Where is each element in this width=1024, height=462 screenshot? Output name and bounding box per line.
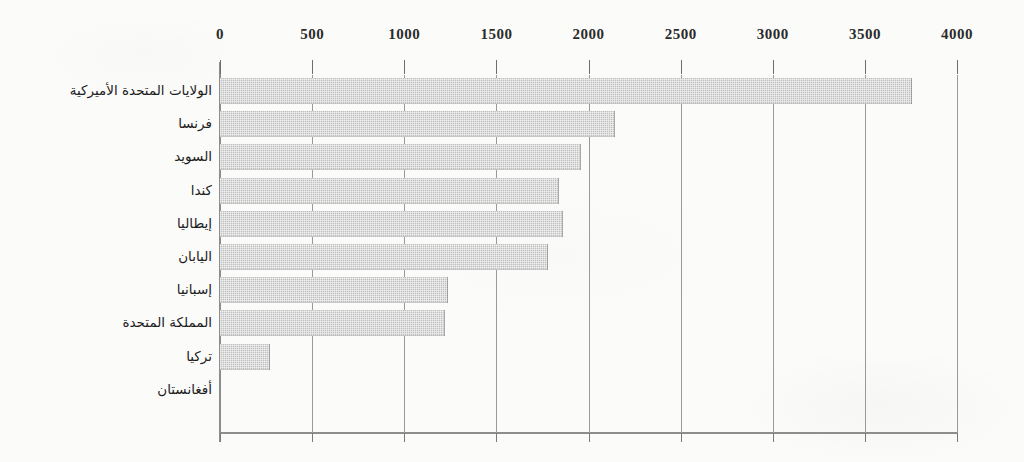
category-label: تركيا xyxy=(10,348,212,364)
x-tick-mark-bottom xyxy=(773,433,774,442)
x-tick-mark xyxy=(865,60,866,74)
x-tick-mark-bottom xyxy=(589,433,590,442)
category-label: السويد xyxy=(10,148,212,164)
category-label: فرنسا xyxy=(10,115,212,131)
bar xyxy=(220,277,448,303)
bar xyxy=(220,111,615,137)
x-tick-mark xyxy=(773,60,774,74)
gridline xyxy=(681,75,682,433)
x-tick-mark xyxy=(496,60,497,74)
x-tick-mark xyxy=(681,60,682,74)
x-tick-mark xyxy=(312,60,313,74)
x-tick-mark-bottom xyxy=(220,433,221,442)
bar xyxy=(220,344,270,370)
x-tick-mark-bottom xyxy=(404,433,405,442)
x-tick-mark xyxy=(589,60,590,74)
category-label: إيطاليا xyxy=(10,215,212,231)
bar-chart: 05001000150020002500300035004000 الولايا… xyxy=(0,0,1024,462)
category-label: كندا xyxy=(10,182,212,198)
x-tick-label: 500 xyxy=(300,26,324,43)
x-tick-mark-bottom xyxy=(681,433,682,442)
bar xyxy=(220,78,912,104)
x-tick-label: 1500 xyxy=(480,26,512,43)
bar xyxy=(220,310,445,336)
category-label: المملكة المتحدة xyxy=(10,314,212,330)
x-tick-mark-bottom xyxy=(312,433,313,442)
bar xyxy=(220,211,563,237)
x-tick-label: 3500 xyxy=(849,26,881,43)
x-tick-label: 2000 xyxy=(573,26,605,43)
x-tick-mark-bottom xyxy=(865,433,866,442)
plot-area xyxy=(220,75,957,433)
x-tick-label: 3000 xyxy=(757,26,789,43)
gridline xyxy=(957,75,958,433)
gridline xyxy=(865,75,866,433)
x-tick-mark xyxy=(404,60,405,74)
x-tick-label: 4000 xyxy=(941,26,973,43)
x-tick-label: 0 xyxy=(216,26,224,43)
x-tick-mark xyxy=(220,60,221,74)
page-background: 05001000150020002500300035004000 الولايا… xyxy=(0,0,1024,462)
x-tick-mark-bottom xyxy=(957,433,958,442)
x-tick-mark xyxy=(957,60,958,74)
category-label: الولايات المتحدة الأميركية xyxy=(10,82,212,98)
bar xyxy=(220,144,581,170)
category-label: أفغانستان xyxy=(10,381,212,397)
bar xyxy=(220,178,559,204)
category-label: إسبانيا xyxy=(10,281,212,297)
x-tick-label: 1000 xyxy=(388,26,420,43)
gridline xyxy=(773,75,774,433)
category-label: اليابان xyxy=(10,248,212,264)
x-tick-label: 2500 xyxy=(665,26,697,43)
bar xyxy=(220,244,548,270)
x-tick-mark-bottom xyxy=(496,433,497,442)
